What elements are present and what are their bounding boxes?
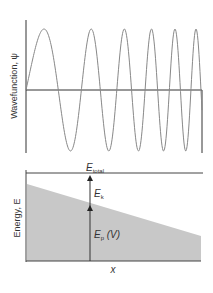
energy-panel: Energy, E Etotal Ek Ep (V) x [12, 162, 203, 275]
energy-xlabel: x [110, 264, 117, 275]
wavefunction-ylabel: Wavefunction, ψ [9, 53, 19, 119]
potential-energy-region [27, 184, 201, 261]
wavefunction-panel: Wavefunction, ψ [9, 20, 202, 153]
kinetic-energy-label: Ek [94, 188, 105, 200]
diagram: Wavefunction, ψ Energy, E Etotal Ek Ep (… [0, 0, 213, 293]
energy-ylabel: Energy, E [12, 199, 22, 238]
total-arrowhead-icon [87, 175, 93, 181]
potential-energy-label: Ep (V) [94, 229, 120, 241]
total-energy-label: Etotal [86, 162, 104, 174]
